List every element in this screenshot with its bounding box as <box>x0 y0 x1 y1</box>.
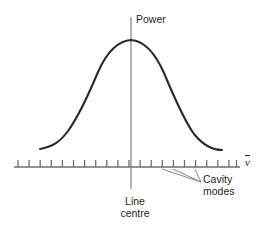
leader-line <box>173 169 201 182</box>
y-axis-label: Power <box>136 14 166 26</box>
cavity-mode-ticks <box>18 160 237 167</box>
line-centre-line-2: centre <box>112 208 158 220</box>
figure-container: Power v Cavity modes Line centre <box>0 0 265 232</box>
cavity-modes-line-2: modes <box>203 186 235 198</box>
x-axis-symbol: v <box>245 155 250 169</box>
cavity-modes-leader-lines <box>162 169 201 182</box>
line-centre-line-1: Line <box>112 196 158 208</box>
nu-glyph: v <box>245 155 250 169</box>
overbar <box>245 155 250 156</box>
cavity-modes-label: Cavity modes <box>203 174 235 197</box>
cavity-modes-line-1: Cavity <box>203 174 235 186</box>
line-centre-label: Line centre <box>112 196 158 219</box>
nu-bar-symbol: v <box>245 155 250 169</box>
leader-line <box>162 169 201 182</box>
